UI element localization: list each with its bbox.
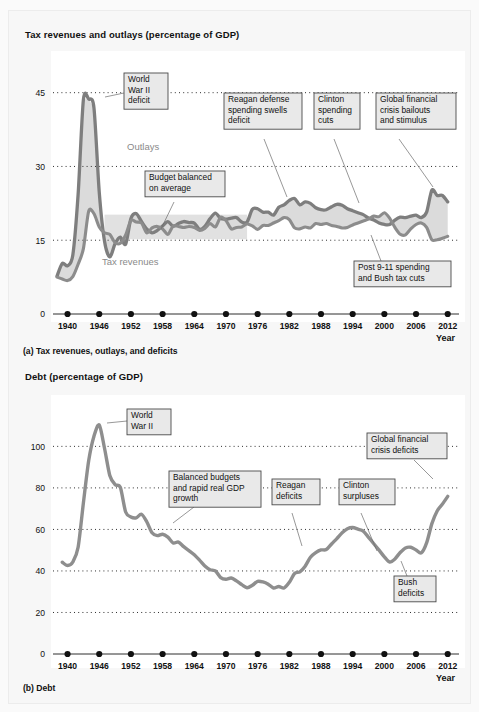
figure-container: Tax revenues and outlays (percentage of … (8, 10, 471, 704)
callout-text-line: War II (128, 85, 150, 95)
panel-a-x-tick-label: 2012 (438, 321, 457, 331)
callout-text-line: Global financial (380, 94, 437, 104)
panel-a-y-tick-label: 30 (35, 162, 45, 172)
panel-b-x-tick-dot (413, 651, 419, 657)
callout-text-line: deficits (276, 491, 302, 501)
panel-a-x-tick-label: 1946 (90, 321, 109, 331)
panel-b-x-tick-label: 1976 (248, 661, 267, 671)
panel-b-x-tick-label: 1964 (185, 661, 204, 671)
panel-a-x-tick-label: 1994 (343, 321, 362, 331)
panel-a-x-tick-dot (255, 311, 261, 317)
panel-a-x-tick-dot (160, 311, 166, 317)
callout-text-line: Post 9-11 spending (358, 262, 430, 272)
panel-a-x-tick-dot (381, 311, 387, 317)
panel-a-x-tick-label: 1952 (121, 321, 140, 331)
callout-text-line: Bush (398, 577, 417, 587)
callout-text-line: Global financial (371, 434, 428, 444)
callout-text-line: deficit (228, 115, 251, 125)
panel-b-x-tick-dot (318, 651, 324, 657)
panel-a-x-tick-label: 1940 (58, 321, 77, 331)
panel-b-x-tick-label: 1946 (90, 661, 109, 671)
panel-a-x-tick-dot (413, 311, 419, 317)
panel-b-x-tick-dot (381, 651, 387, 657)
panel-b-x-tick-label: 2012 (438, 661, 457, 671)
callout-text-line: Clinton (343, 480, 369, 490)
callout-text-line: and stimulus (380, 115, 427, 125)
panel-b-x-tick-label: 1970 (216, 661, 235, 671)
panel-a-x-tick-dot (318, 311, 324, 317)
callout-text-line: surpluses (343, 491, 379, 501)
panel-b-x-tick-label: 1994 (343, 661, 362, 671)
callout-text-line: Budget balanced (149, 172, 212, 182)
panel-b-x-tick-label: 2006 (406, 661, 425, 671)
panel-b-y-tick-label: 0 (40, 649, 45, 659)
panel-a-x-tick-dot (350, 311, 356, 317)
panel-a-x-tick-dot (286, 311, 292, 317)
panel-a-x-tick-label: 2000 (375, 321, 394, 331)
callout-text-line: cuts (318, 115, 333, 125)
panel-b-x-tick-label: 1982 (280, 661, 299, 671)
panel-b-x-tick-dot (286, 651, 292, 657)
panel-b-x-tick-dot (160, 651, 166, 657)
panel-b-x-tick-label: 2000 (375, 661, 394, 671)
panel-a-x-tick-dot (223, 311, 229, 317)
panel-b-y-tick-label: 100 (31, 442, 46, 452)
panel-a-chart: 0153045194019461952195819641970197619821… (9, 11, 472, 341)
panel-b-x-tick-label: 1988 (311, 661, 330, 671)
panel-b-x-tick-dot (350, 651, 356, 657)
panel-b-x-tick-dot (128, 651, 134, 657)
callout-text-line: War II (131, 421, 153, 431)
callout-text-line: Reagan defense (228, 94, 290, 104)
callout-text-line: crisis bailouts (380, 105, 430, 115)
outlays-series-label: Outlays (127, 141, 159, 152)
callout-text-line: World (128, 74, 150, 84)
panel-b-y-tick-label: 60 (35, 525, 45, 535)
panel-b-y-tick-label: 20 (35, 608, 45, 618)
panel-b: Debt (percentage of GDP) 020406080100194… (9, 361, 472, 705)
panel-a-x-tick-dot (445, 311, 451, 317)
tax-revenues-series-label: Tax revenues (102, 256, 159, 267)
panel-a-y-tick-label: 15 (35, 236, 45, 246)
panel-a-x-tick-label: 1976 (248, 321, 267, 331)
panel-a-x-tick-label: 1982 (280, 321, 299, 331)
panel-b-y-tick-label: 40 (35, 566, 45, 576)
panel-b-x-tick-dot (255, 651, 261, 657)
panel-a-x-tick-dot (191, 311, 197, 317)
callout-text-line: and Bush tax cuts (358, 273, 425, 283)
panel-a-x-axis-title: Year (436, 333, 456, 343)
panel-a-caption: (a) Tax revenues, outlays, and deficits (23, 346, 178, 356)
panel-a-y-tick-label: 0 (40, 309, 45, 319)
panel-a-y-tick-label: 45 (35, 88, 45, 98)
callout-text-line: on average (149, 183, 191, 193)
panel-b-caption: (b) Debt (23, 683, 55, 693)
panel-b-x-tick-dot (64, 651, 70, 657)
panel-a-x-tick-dot (64, 311, 70, 317)
callout-text-line: Reagan (276, 480, 306, 490)
panel-b-x-tick-dot (223, 651, 229, 657)
callout-text-line: spending (318, 105, 352, 115)
panel-a-x-tick-label: 1988 (311, 321, 330, 331)
panel-b-chart: 0204060801001940194619521958196419701976… (9, 361, 472, 681)
callout-text-line: World (131, 410, 153, 420)
panel-a-x-tick-label: 1964 (185, 321, 204, 331)
panel-a-x-tick-dot (128, 311, 134, 317)
callout-text-line: deficit (128, 95, 151, 105)
panel-b-x-tick-label: 1958 (153, 661, 172, 671)
panel-b-x-tick-dot (96, 651, 102, 657)
callout-text-line: and rapid real GDP (173, 483, 245, 493)
callout-text-line: growth (173, 493, 198, 503)
panel-b-y-tick-label: 80 (35, 483, 45, 493)
callout-text-line: Balanced budgets (173, 472, 240, 482)
panel-b-x-tick-label: 1952 (121, 661, 140, 671)
panel-b-x-tick-dot (191, 651, 197, 657)
panel-a-x-tick-label: 2006 (406, 321, 425, 331)
panel-b-x-tick-dot (445, 651, 451, 657)
figure-page: Tax revenues and outlays (percentage of … (0, 0, 479, 712)
callout-text-line: spending swells (228, 105, 287, 115)
panel-b-x-axis-title: Year (436, 673, 456, 683)
callout-text-line: crisis deficits (371, 445, 418, 455)
panel-b-x-tick-label: 1940 (58, 661, 77, 671)
callout-text-line: Clinton (318, 94, 344, 104)
panel-a-x-tick-dot (96, 311, 102, 317)
panel-a-x-tick-label: 1958 (153, 321, 172, 331)
